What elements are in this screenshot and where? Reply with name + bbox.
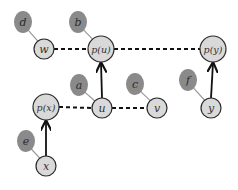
blob-label: b bbox=[74, 16, 81, 29]
node-x: x bbox=[36, 156, 56, 176]
blob-e: e bbox=[17, 130, 35, 152]
node-pu: p(u) bbox=[88, 36, 114, 62]
node-y: y bbox=[201, 98, 221, 118]
node-label: w bbox=[39, 43, 49, 56]
node-label: v bbox=[154, 102, 161, 115]
node-label: x bbox=[43, 160, 50, 173]
blob-label: a bbox=[76, 79, 83, 92]
node-label: p(y) bbox=[204, 44, 223, 55]
blob-label: c bbox=[132, 78, 138, 91]
tether-a bbox=[84, 91, 95, 101]
node-u: u bbox=[92, 98, 112, 118]
tether-c bbox=[140, 91, 151, 101]
node-label: p(x) bbox=[37, 102, 56, 113]
node-px: p(x) bbox=[33, 94, 59, 120]
tether-f bbox=[192, 87, 204, 100]
node-v: v bbox=[147, 98, 167, 118]
tether-b bbox=[83, 29, 93, 39]
blob-label: d bbox=[19, 16, 26, 29]
node-py: p(y) bbox=[200, 36, 226, 62]
arrow-edge-u-pu bbox=[101, 63, 102, 98]
node-label: u bbox=[98, 102, 105, 115]
blob-c: c bbox=[126, 73, 144, 95]
union-find-diagram: dbacfe wp(u)p(y)p(x)uvyx bbox=[0, 0, 238, 190]
arrow-edge-y-py bbox=[211, 63, 213, 98]
node-w: w bbox=[34, 39, 54, 59]
tether-d bbox=[27, 29, 38, 41]
blob-b: b bbox=[69, 11, 87, 33]
blobs: dbacfe bbox=[14, 11, 197, 152]
nodes: wp(u)p(y)p(x)uvyx bbox=[33, 36, 226, 176]
blob-d: d bbox=[14, 11, 32, 33]
node-label: y bbox=[207, 102, 215, 115]
dashed-edge-px-u bbox=[59, 107, 92, 108]
blob-label: e bbox=[23, 135, 30, 148]
tether-e bbox=[30, 148, 39, 158]
node-label: p(u) bbox=[91, 44, 111, 55]
blob-f: f bbox=[179, 69, 197, 91]
blob-a: a bbox=[70, 74, 88, 96]
